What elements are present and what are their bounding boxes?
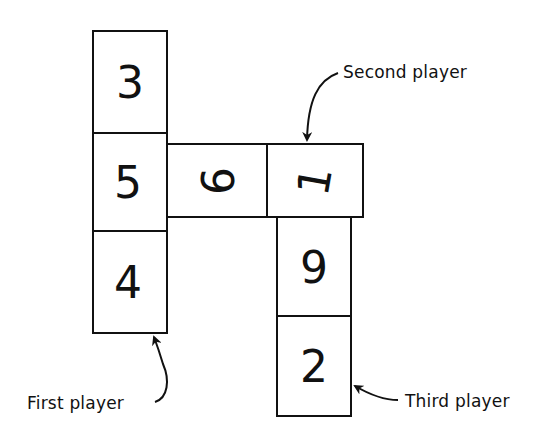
second-player-arrow-icon (307, 73, 338, 140)
domino-diagram: 3 5 4 6 1 9 2 Second player First player… (0, 0, 558, 429)
first-player-label: First player (27, 393, 124, 413)
tile-9-value: 9 (300, 242, 328, 293)
third-player-label: Third player (405, 391, 510, 411)
tile-2-value: 2 (300, 341, 328, 392)
diagram-canvas: 3 5 4 6 1 9 2 (0, 0, 558, 429)
tile-4-value: 4 (114, 257, 142, 308)
second-player-label: Second player (343, 62, 467, 82)
tile-5-value: 5 (114, 157, 142, 208)
tile-3-value: 3 (116, 57, 144, 108)
tile-6-value: 6 (193, 167, 244, 195)
first-player-arrow-icon (154, 337, 167, 402)
third-player-arrow-icon (355, 386, 398, 400)
tile-1-value: 1 (287, 163, 342, 199)
tile-digits: 3 5 4 6 1 9 2 (114, 57, 342, 392)
